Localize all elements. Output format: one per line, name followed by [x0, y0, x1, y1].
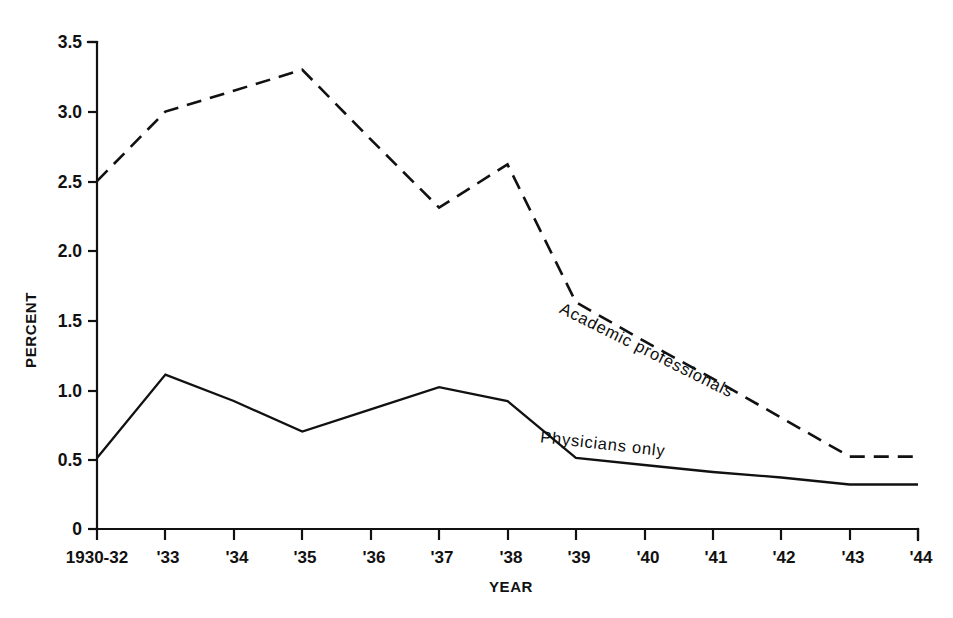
y-tick-labels: 3.5 3.0 2.5 2.0 1.5 1.0 0.5 0 — [58, 32, 83, 539]
series-label-physicians-only: Physicians only — [539, 427, 666, 459]
chart-container: 3.5 3.0 2.5 2.0 1.5 1.0 0.5 0 PERCENT — [0, 0, 953, 618]
x-tick-label: '35 — [294, 548, 317, 567]
y-tick-label: 0.5 — [58, 450, 83, 470]
y-tick-label: 1.0 — [58, 381, 83, 401]
x-axis-title: YEAR — [489, 578, 533, 595]
series-line-academic-professionals — [97, 70, 918, 457]
x-tick-label: '43 — [842, 548, 865, 567]
x-tick-labels: 1930-32 '33 '34 '35 '36 '37 '38 '39 '40 … — [66, 548, 933, 567]
y-axis-title: PERCENT — [22, 292, 39, 368]
y-tick-label: 2.5 — [58, 172, 83, 192]
x-tick-label: '39 — [568, 548, 591, 567]
x-tick-label: '42 — [773, 548, 796, 567]
x-tick-label: '41 — [705, 548, 728, 567]
y-tick-label: 0 — [72, 519, 82, 539]
x-tick-label: '38 — [500, 548, 523, 567]
x-tick-label: '36 — [363, 548, 386, 567]
y-tick-label: 1.5 — [58, 311, 83, 331]
x-tick-label: '33 — [157, 548, 180, 567]
line-chart: 3.5 3.0 2.5 2.0 1.5 1.0 0.5 0 PERCENT — [0, 0, 953, 618]
x-tick-label: '40 — [637, 548, 660, 567]
x-tick-marks — [97, 529, 918, 540]
x-tick-label: '37 — [431, 548, 454, 567]
y-tick-label: 3.5 — [58, 32, 83, 52]
x-tick-label: 1930-32 — [66, 548, 128, 567]
y-tick-label: 2.0 — [58, 241, 83, 261]
y-tick-marks — [88, 42, 97, 529]
y-tick-label: 3.0 — [58, 102, 83, 122]
series-line-physicians-only — [97, 375, 918, 485]
x-tick-label: '44 — [910, 548, 933, 567]
x-tick-label: '34 — [226, 548, 249, 567]
series-label-academic-professionals: Academic professionals — [557, 299, 737, 401]
